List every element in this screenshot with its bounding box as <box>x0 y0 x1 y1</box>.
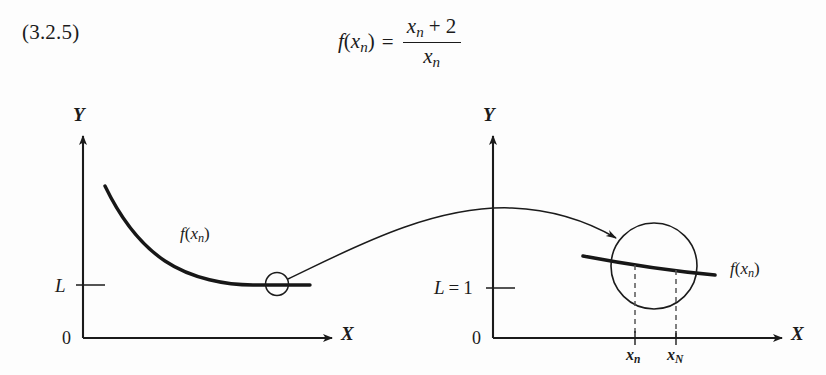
left-curve-label-var: x <box>190 224 198 243</box>
point-label-xn-var: x <box>626 346 634 363</box>
left-curve-label: f(xn) <box>180 224 210 246</box>
left-y-axis-label: Y <box>73 104 85 126</box>
left-x-axis-label: X <box>341 323 354 345</box>
point-label-xn-sub: n <box>634 353 640 365</box>
left-limit-label: L <box>55 275 66 297</box>
left-origin-label: 0 <box>62 328 71 349</box>
point-label-xn: xn <box>626 346 640 365</box>
figure-root: (3.2.5) f(xn) = xn+ 2 xn <box>0 0 826 375</box>
magnify-connector-arrow <box>288 208 616 279</box>
right-curve-label-close: ) <box>754 259 760 278</box>
right-x-axis-label: X <box>791 323 804 345</box>
right-limit-value: 1 <box>463 277 473 298</box>
right-limit-L: L <box>434 277 445 298</box>
point-label-xN-var: x <box>667 346 675 363</box>
right-curve-label: f(xn) <box>730 259 760 281</box>
right-limit-label: L=1 <box>434 277 473 299</box>
left-curve-label-close: ) <box>204 224 210 243</box>
graphs-svg <box>0 0 826 375</box>
point-label-xN-sub: N <box>675 353 683 365</box>
right-origin-label: 0 <box>472 328 481 349</box>
right-curve-label-var: x <box>740 259 748 278</box>
magnifier-circle <box>611 223 697 309</box>
right-panel-axes <box>486 136 782 338</box>
right-y-axis-label: Y <box>483 104 495 126</box>
right-curve-fxn <box>583 256 715 275</box>
right-limit-equals: = <box>449 277 460 298</box>
point-label-xN: xN <box>667 346 683 365</box>
